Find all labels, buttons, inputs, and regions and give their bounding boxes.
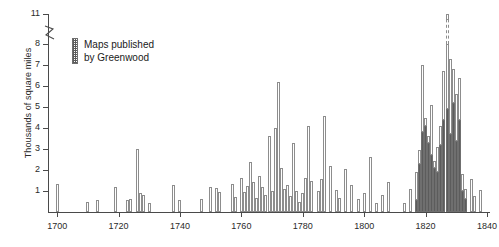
bar-other (148, 203, 151, 212)
bar-other (344, 169, 347, 212)
bar-other (329, 166, 332, 212)
legend-label-line2: by Greenwood (84, 51, 154, 64)
bar-other (200, 199, 203, 212)
bar-other (409, 189, 412, 212)
bar-other (114, 187, 117, 212)
bar-other (357, 199, 360, 212)
bar-other (350, 185, 353, 212)
bar-other (338, 198, 341, 212)
bar-other (387, 182, 390, 212)
bar-other (323, 116, 326, 212)
bar-other (178, 200, 181, 212)
bar-other (458, 78, 461, 120)
bar-other (464, 189, 467, 200)
bar-other (310, 181, 313, 213)
bar-other (129, 199, 132, 212)
bar-other (473, 196, 476, 212)
bar-other (363, 193, 366, 212)
bar-other (381, 195, 384, 212)
bar-other (369, 157, 372, 212)
legend: Maps published by Greenwood (72, 38, 154, 64)
bar-other (403, 203, 406, 212)
legend-swatch-greenwood (72, 38, 78, 64)
bar-other (218, 192, 221, 212)
bar-other (56, 184, 59, 212)
bar-other (142, 195, 145, 212)
bar-other (234, 197, 237, 212)
bar-other (424, 118, 427, 126)
bar-greenwood (464, 199, 467, 212)
bar-other (172, 185, 175, 212)
bar-other (430, 105, 433, 155)
bar-other (209, 187, 212, 212)
legend-label-line1: Maps published (84, 38, 154, 51)
bar-other (86, 202, 89, 213)
bar-other (375, 203, 378, 212)
map-publication-histogram: Thousands of square miles 1234567811 170… (0, 0, 499, 247)
bar-other (479, 190, 482, 212)
bar-break-cap (446, 14, 449, 20)
legend-label-greenwood: Maps published by Greenwood (84, 38, 154, 64)
bar-other (96, 200, 99, 212)
